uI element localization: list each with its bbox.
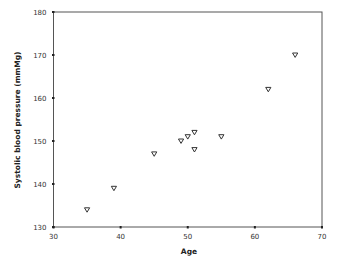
x-axis-title: Age xyxy=(181,247,197,256)
x-tick-label: 40 xyxy=(116,233,125,241)
y-tick-label: 130 xyxy=(33,224,46,232)
x-tick-label: 30 xyxy=(49,233,58,241)
y-tick-mark xyxy=(52,183,55,185)
y-axis-title: Systolic blood pressure (mmMg) xyxy=(13,51,22,188)
data-point-marker xyxy=(219,135,224,139)
data-point-marker xyxy=(111,186,116,190)
data-point-marker xyxy=(152,152,157,156)
y-tick-label: 180 xyxy=(33,9,46,17)
y-tick-label: 170 xyxy=(33,52,46,60)
y-tick-mark xyxy=(52,11,55,13)
chart-canvas: 130140150160170180 3040506070 Age Systol… xyxy=(0,0,342,273)
x-tick-mark xyxy=(120,226,122,229)
data-point-marker xyxy=(185,135,190,139)
y-tick-mark xyxy=(52,54,55,56)
x-tick-mark xyxy=(254,226,256,229)
x-tick-mark xyxy=(187,226,189,229)
y-tick-mark xyxy=(52,140,55,142)
y-tick-label: 150 xyxy=(33,138,46,146)
x-axis: 3040506070 xyxy=(49,226,326,241)
x-tick-label: 70 xyxy=(318,233,327,241)
x-tick-label: 60 xyxy=(250,233,259,241)
y-tick-label: 160 xyxy=(33,95,46,103)
x-tick-mark xyxy=(321,226,323,229)
data-points xyxy=(84,53,297,212)
plot-area xyxy=(54,12,323,227)
x-tick-label: 50 xyxy=(183,233,192,241)
scatter-chart: 130140150160170180 3040506070 Age Systol… xyxy=(0,0,342,273)
data-point-marker xyxy=(266,87,271,91)
y-tick-label: 140 xyxy=(33,181,46,189)
data-point-marker xyxy=(192,148,197,152)
x-tick-mark xyxy=(53,226,55,229)
data-point-marker xyxy=(293,53,298,57)
data-point-marker xyxy=(192,130,197,134)
plot-border xyxy=(54,12,323,227)
data-point-marker xyxy=(178,139,183,143)
data-point-marker xyxy=(84,208,89,212)
y-axis: 130140150160170180 xyxy=(33,9,54,232)
y-tick-mark xyxy=(52,97,55,99)
